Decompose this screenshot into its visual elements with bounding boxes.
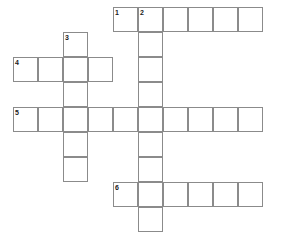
crossword-cell[interactable] — [138, 107, 163, 132]
crossword-cell[interactable] — [188, 7, 213, 32]
crossword-cell[interactable] — [138, 132, 163, 157]
crossword-cell[interactable] — [163, 7, 188, 32]
crossword-cell[interactable] — [213, 182, 238, 207]
crossword-cell[interactable] — [38, 107, 63, 132]
crossword-cell[interactable] — [163, 107, 188, 132]
crossword-cell[interactable] — [63, 57, 88, 82]
crossword-cell[interactable] — [138, 57, 163, 82]
crossword-cell[interactable] — [213, 107, 238, 132]
crossword-cell[interactable] — [138, 182, 163, 207]
crossword-cell[interactable] — [238, 107, 263, 132]
crossword-cell[interactable] — [138, 82, 163, 107]
crossword-cell[interactable] — [88, 107, 113, 132]
crossword-cell[interactable] — [138, 32, 163, 57]
crossword-cell[interactable] — [63, 82, 88, 107]
crossword-cell[interactable] — [13, 107, 38, 132]
crossword-cell[interactable] — [188, 107, 213, 132]
crossword-cell[interactable] — [238, 7, 263, 32]
crossword-cell[interactable] — [138, 7, 163, 32]
crossword-cell[interactable] — [88, 57, 113, 82]
crossword-cell[interactable] — [238, 182, 263, 207]
crossword-cell[interactable] — [113, 182, 138, 207]
crossword-cell[interactable] — [113, 7, 138, 32]
crossword-cell[interactable] — [63, 157, 88, 182]
crossword-cell[interactable] — [63, 132, 88, 157]
crossword-cell[interactable] — [63, 32, 88, 57]
crossword-cell[interactable] — [63, 107, 88, 132]
crossword-cell[interactable] — [213, 7, 238, 32]
crossword-cell[interactable] — [138, 157, 163, 182]
crossword-cell[interactable] — [163, 182, 188, 207]
crossword-cell[interactable] — [113, 107, 138, 132]
crossword-cell[interactable] — [138, 207, 163, 232]
crossword-puzzle: 123456 — [0, 0, 281, 237]
crossword-grid[interactable]: 123456 — [0, 0, 281, 237]
crossword-cell[interactable] — [188, 182, 213, 207]
crossword-cell[interactable] — [13, 57, 38, 82]
crossword-cell[interactable] — [38, 57, 63, 82]
